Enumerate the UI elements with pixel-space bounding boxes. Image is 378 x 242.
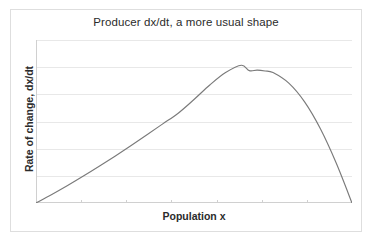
- plot-svg: [36, 40, 352, 203]
- data-series-curve: [36, 65, 352, 203]
- axes-group: [36, 40, 352, 203]
- chart-figure: Producer dx/dt, a more usual shape Rate …: [0, 0, 378, 242]
- gridlines-group: [36, 41, 352, 204]
- chart-title: Producer dx/dt, a more usual shape: [10, 16, 362, 28]
- x-axis-title: Population x: [36, 210, 352, 222]
- plot-area: [36, 40, 352, 203]
- y-axis-title: Rate of change, dx/dt: [23, 44, 35, 194]
